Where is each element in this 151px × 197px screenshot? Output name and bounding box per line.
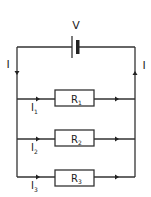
resistor-r2-label: R2 [71,134,82,146]
arrow-right-icon [115,137,119,142]
branch-2-current-label: I2 [31,142,38,155]
branch-3-current-label: I3 [31,180,38,193]
resistor-r3-label: R3 [71,173,82,185]
arrow-right-icon [36,175,40,180]
arrow-right-icon [36,97,40,102]
arrow-right-icon [36,137,40,142]
circuit-diagram: V I I R1 I1 R2 I2 R3 I3 [0,0,151,197]
current-label-right: I [142,59,145,72]
battery-short-plate [76,40,80,54]
current-label-left: I [6,58,9,71]
resistor-r1-label: R1 [71,94,82,106]
branch-1-current-label: I1 [31,102,38,115]
arrow-up-icon [133,71,138,75]
arrow-right-icon [115,175,119,180]
battery-label: V [72,19,80,32]
arrow-right-icon [115,97,119,102]
arrow-down-icon [15,71,20,75]
current-arrows [15,71,138,180]
